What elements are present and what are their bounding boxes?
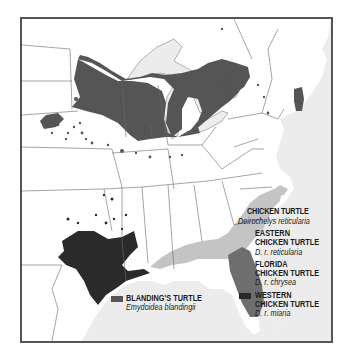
western-scientific: D. r. miaria <box>255 309 326 318</box>
eastern-scientific: D. r. reticularia <box>255 248 326 257</box>
blandings-scientific: Emydoidea blandingii <box>126 303 195 312</box>
western-swatch <box>239 293 251 299</box>
legend-item-western: WESTERN CHICKEN TURTLE D. r. miaria <box>238 291 338 319</box>
western-chicken-dots <box>67 194 128 230</box>
legend-item-eastern: EASTERN CHICKEN TURTLE D. r. reticularia <box>238 229 338 257</box>
chicken-turtle-legend: CHICKEN TURTLE Deirochelys reticularia E… <box>238 207 338 319</box>
legend-item-florida: FLORIDA CHICKEN TURTLE D. r. chrysea <box>238 260 338 288</box>
blandings-swatch <box>111 296 123 302</box>
chicken-turtle-scientific: Deirochelys reticularia <box>238 217 323 227</box>
florida-swatch <box>239 262 251 268</box>
florida-scientific: D. r. chrysea <box>255 278 326 287</box>
eastern-swatch <box>239 231 251 237</box>
